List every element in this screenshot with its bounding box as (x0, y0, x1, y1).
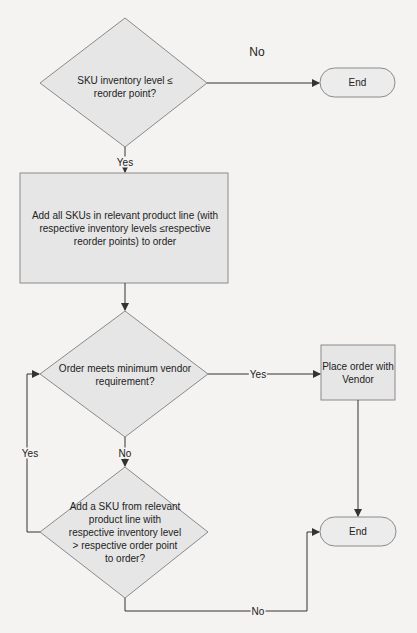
end-bottom-label: End (320, 517, 396, 546)
edge-label-min-yes: Yes (249, 369, 267, 380)
place-order-label: Place order with Vendor (322, 350, 394, 396)
edge-label-min-no: No (118, 448, 133, 459)
decision-reorder-label: SKU inventory level ≤ reorder point? (60, 70, 190, 104)
edge-label-reorder-yes: Yes (116, 157, 134, 168)
edge-label-reorder-no: No (248, 45, 265, 59)
edge-label-add-sku-yes: Yes (21, 448, 39, 459)
decision-min-vendor-label: Order meets minimum vendor requirement? (58, 358, 192, 392)
end-top-label: End (320, 68, 395, 97)
edge-label-add-sku-no: No (251, 606, 266, 617)
add-all-skus-label: Add all SKUs in relevant product line (w… (30, 190, 220, 266)
decision-add-sku-label: Add a SKU from relevant product line wit… (68, 504, 182, 560)
